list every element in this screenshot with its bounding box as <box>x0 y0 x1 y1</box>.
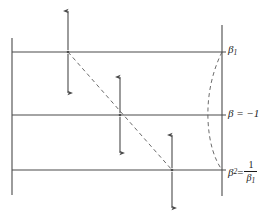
label-beta1: β1 <box>228 44 237 56</box>
phase-diagram-canvas <box>0 0 259 214</box>
horizontal-lines-group <box>12 52 226 170</box>
label-beta2-equals: = <box>237 167 243 178</box>
label-beta1-subscript: 1 <box>233 48 237 57</box>
arrow-middle <box>119 77 122 153</box>
arrow-lower-node <box>171 169 174 172</box>
label-beta2-numerator: 1 <box>246 160 255 170</box>
label-beta-equals-negative-one-text: β = −1 <box>228 107 259 119</box>
arrow-upper-node <box>67 51 70 54</box>
arrow-lower <box>171 135 174 208</box>
dashed-curve-group <box>208 52 222 170</box>
label-beta2-denominator-subscript: 1 <box>252 176 256 185</box>
dashed-curve <box>208 52 222 170</box>
label-beta2-fraction: 1 β1 <box>244 160 257 184</box>
arrow-middle-node <box>119 114 122 117</box>
label-beta2-denominator: β1 <box>245 173 258 184</box>
arrow-upper <box>67 11 70 93</box>
phase-diagram-figure: β1 β = −1 β2= 1 β1 <box>0 0 259 214</box>
label-beta2: β2= 1 β1 <box>228 160 257 184</box>
double-arrows-group <box>67 11 174 208</box>
label-beta-equals-negative-one: β = −1 <box>228 108 259 119</box>
